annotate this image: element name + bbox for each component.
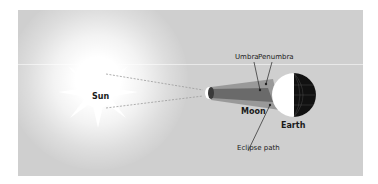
penumbra-label: Penumbra: [258, 53, 294, 61]
eclipse-path-label: Eclipse path: [237, 144, 280, 152]
earth-icon: [272, 73, 316, 117]
eclipse-illustration: [18, 10, 363, 176]
umbra-label: Umbra: [235, 53, 259, 61]
sun-icon: [58, 54, 138, 128]
earth-label: Earth: [281, 121, 305, 130]
moon-label: Moon: [241, 107, 266, 116]
sun-label: Sun: [92, 92, 109, 101]
moon-icon: [205, 87, 214, 99]
diagram-panel: Sun Umbra Penumbra Moon Earth Eclipse pa…: [18, 10, 363, 176]
